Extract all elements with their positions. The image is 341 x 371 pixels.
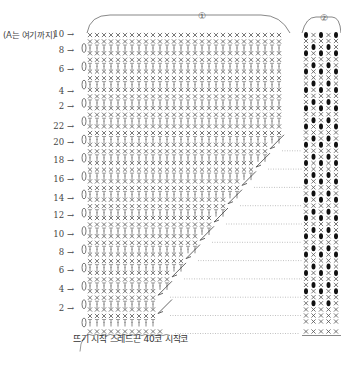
- row-label: 10 →: [40, 29, 74, 39]
- row-label: 4 →: [40, 86, 74, 96]
- row-label: 10 →: [40, 229, 74, 239]
- svg-text:①: ①: [198, 11, 206, 21]
- row-label: 6 →: [40, 265, 74, 275]
- svg-text:②: ②: [320, 13, 328, 23]
- row-label: 12 →: [40, 210, 74, 220]
- row-label: 8 →: [40, 45, 74, 55]
- row-label: 2 →: [40, 101, 74, 111]
- row-label: 4 →: [40, 284, 74, 294]
- row-label: 8 →: [40, 247, 74, 257]
- stitch-chart: ①②: [0, 0, 341, 371]
- row-label: 2 →: [40, 303, 74, 313]
- row-label: 14 →: [40, 193, 74, 203]
- row-label: 16 →: [40, 174, 74, 184]
- caption: 뜨기 시작 스레드끈 40코 시작코: [73, 332, 188, 345]
- row-label: 20 →: [40, 137, 74, 147]
- row-label: 22 →: [40, 121, 74, 131]
- row-label: 6 →: [40, 64, 74, 74]
- row-label: 18 →: [40, 155, 74, 165]
